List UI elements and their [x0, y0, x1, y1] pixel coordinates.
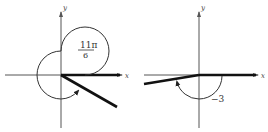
left-diagram: x y 11π 6 — [5, 4, 129, 128]
terminal-side — [61, 75, 117, 107]
terminal-side — [144, 75, 199, 84]
x-axis-label: x — [261, 72, 265, 80]
angle-numerator: 11π — [80, 40, 97, 50]
x-axis-label: x — [125, 72, 129, 80]
angle-label: 11π 6 — [78, 40, 97, 60]
right-diagram: x y −3 — [144, 4, 265, 128]
y-axis-label: y — [62, 4, 68, 12]
y-axis-label: y — [200, 4, 206, 12]
angle-arc — [37, 27, 109, 99]
angle-denominator: 6 — [83, 51, 88, 60]
angle-diagrams: x y 11π 6 x y −3 — [0, 0, 268, 132]
angle-label: −3 — [211, 94, 225, 104]
